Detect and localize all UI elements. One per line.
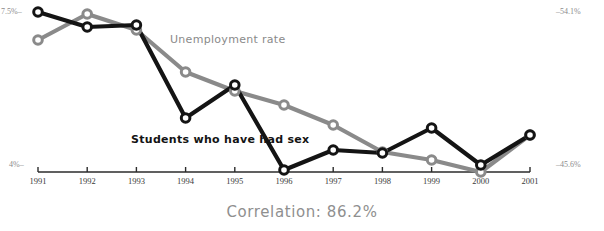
data-point-marker [181,68,190,77]
right-axis-max-label: –54.1% [556,7,581,16]
data-point-marker [329,146,338,155]
x-axis-tick-2001: 2001 [522,176,539,186]
right-axis-min-label: –45.6% [556,160,581,169]
x-axis-tick-1992: 1992 [79,176,96,186]
data-point-marker [526,131,535,140]
data-point-marker [329,121,338,130]
left-axis-min-label: 4%– [9,160,24,169]
data-point-marker [132,21,141,30]
data-point-marker [34,8,43,17]
x-axis-tick-1991: 1991 [30,176,47,186]
data-point-marker [83,10,92,19]
data-point-marker [427,156,436,165]
data-point-marker [280,166,289,175]
data-point-marker [280,101,289,110]
left-axis-max-label: 7.5%– [1,7,22,16]
x-axis-tick-1997: 1997 [325,176,342,186]
correlation-caption: Correlation: 86.2% [0,203,604,221]
data-point-marker [181,114,190,123]
series-label-unemployment-rate: Unemployment rate [170,33,286,46]
x-axis-tick-2000: 2000 [472,176,489,186]
data-point-marker [477,161,486,170]
x-axis-tick-1999: 1999 [423,176,440,186]
x-axis-tick-1993: 1993 [128,176,145,186]
spurious-correlation-chart: 7.5%– 4%– –54.1% –45.6% 1991199219931994… [0,0,604,231]
data-point-marker [378,149,387,158]
x-axis-tick-1994: 1994 [177,176,194,186]
x-axis-tick-1995: 1995 [226,176,243,186]
data-point-marker [231,81,240,90]
data-point-marker [34,36,43,45]
chart-plot-area [0,0,604,231]
x-axis-tick-1996: 1996 [276,176,293,186]
data-point-marker [427,124,436,133]
data-point-marker [83,23,92,32]
x-axis-tick-1998: 1998 [374,176,391,186]
series-label-students-who-have-had-sex: Students who have had sex [131,133,309,146]
